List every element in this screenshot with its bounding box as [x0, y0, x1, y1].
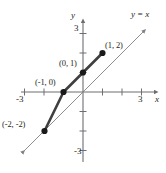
- point-label-1-2: (1, 2): [105, 41, 123, 50]
- point-label-neg2-neg2: (-2, -2): [2, 120, 25, 129]
- y-tick-label-bottom: -3: [74, 147, 81, 156]
- point-label-0-1: (0, 1): [59, 59, 77, 68]
- x-tick-label-left: -3: [16, 95, 23, 104]
- data-point-marker: [60, 89, 66, 95]
- coordinate-plane-figure: y x 3 -3 -3 3 y = x (1, 2) (0, 1) (-1, 0…: [0, 0, 166, 173]
- point-label-neg1-0: (-1, 0): [35, 78, 56, 87]
- data-point-marker: [41, 128, 47, 134]
- y-axis-label: y: [71, 11, 75, 20]
- x-tick-label-right: 3: [138, 95, 142, 104]
- plot-canvas: [0, 0, 166, 173]
- x-axis: [21, 89, 155, 96]
- y-tick-label-top: 3: [74, 24, 78, 33]
- data-point-marker: [80, 69, 86, 75]
- identity-line-label: y = x: [131, 10, 149, 19]
- x-axis-label: x: [155, 95, 159, 104]
- data-point-marker: [99, 50, 105, 56]
